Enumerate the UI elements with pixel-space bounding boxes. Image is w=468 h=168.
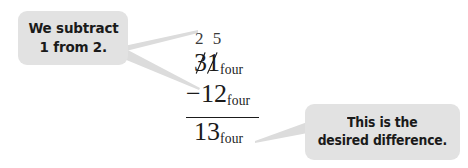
minuend-row: 31 four (186, 50, 306, 81)
callout-left: We subtract 1 from 2. (18, 11, 128, 65)
difference-base: four (220, 131, 243, 146)
subtrahend-digits: 12 (201, 79, 227, 108)
callout-right-line-1: This is the (347, 114, 417, 132)
callout-right: This is the desired difference. (305, 104, 460, 160)
callout-left-line-2-emphasis: 2. (93, 39, 107, 55)
callout-right-line-2: desired difference. (318, 132, 448, 150)
subtrahend-row: −12four (186, 81, 306, 112)
subtrahend-base: four (227, 93, 250, 108)
callout-left-line-2: 1 from 2. (39, 38, 106, 57)
callout-left-line-2-prefix: 1 from (39, 39, 92, 55)
callout-left-pointer-to-minuend (124, 46, 200, 90)
subtraction-rule (186, 117, 259, 118)
difference-digits: 13 (194, 117, 220, 146)
borrow-digits-row: 2 5 (186, 30, 306, 50)
worksheet-figure: We subtract 1 from 2. This is the desire… (0, 0, 468, 168)
minuend-base: four (220, 62, 243, 77)
callout-left-line-1: We subtract (28, 19, 118, 38)
